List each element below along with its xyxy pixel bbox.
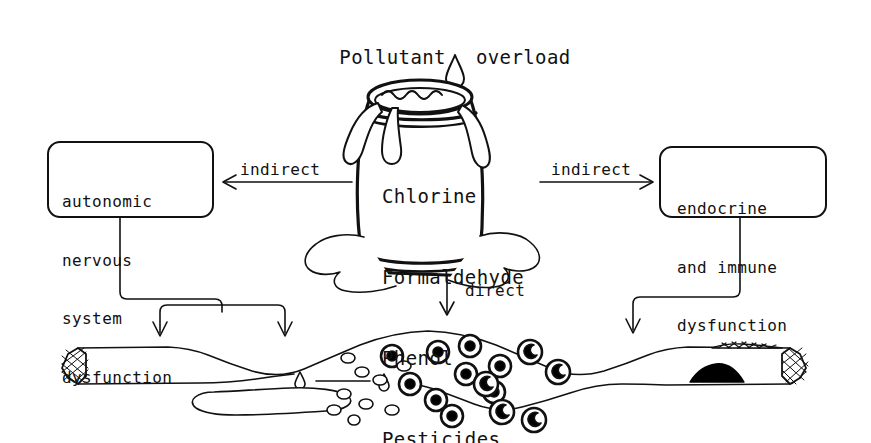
box-left-label: autonomic nervous system dysfunction (62, 153, 172, 426)
cell-crescent (522, 408, 546, 432)
box-left-line: nervous (62, 251, 172, 271)
barrel-item: Chlorine (382, 183, 524, 210)
box-left-line: dysfunction (62, 368, 172, 388)
arrow-label-indirect-left: indirect (240, 160, 320, 179)
box-right-line: endocrine (677, 199, 787, 219)
barrel-item: Phenol (382, 345, 524, 372)
box-right-label: endocrine and immune dysfunction (677, 160, 787, 375)
barrel-item: Pesticides (382, 426, 524, 443)
diagram-canvas: Pollutantoverload Chlorine Formaldehyde … (0, 0, 871, 443)
title-part-1: Pollutant (339, 46, 446, 68)
box-right-line: dysfunction (677, 316, 787, 336)
leak-droplet-1 (295, 372, 305, 389)
page-title: Pollutantoverload (292, 24, 571, 90)
cell-crescent (546, 360, 570, 384)
title-part-2: overload (476, 46, 571, 68)
box-left-line: system (62, 309, 172, 329)
arrow-label-indirect-right: indirect (551, 160, 631, 179)
arrow-label-direct: direct (465, 281, 525, 300)
box-right-line: and immune (677, 258, 787, 278)
box-left-line: autonomic (62, 192, 172, 212)
